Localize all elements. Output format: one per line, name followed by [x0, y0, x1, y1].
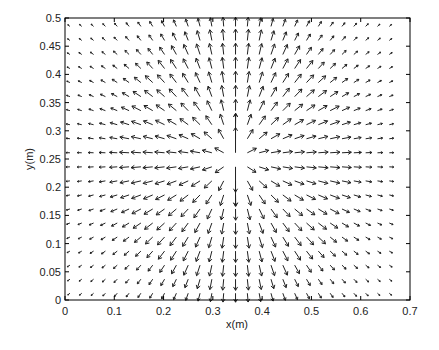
y-tick-label: 0.2 [46, 181, 61, 193]
x-tick-label: 0 [62, 305, 68, 317]
y-tick-label: 0.05 [40, 266, 61, 278]
x-tick-label: 0.7 [402, 305, 417, 317]
y-tick-label: 0.35 [40, 97, 61, 109]
x-tick-label: 0.2 [156, 305, 171, 317]
y-tick-label: 0 [55, 294, 61, 306]
x-tick-label: 0.5 [304, 305, 319, 317]
y-tick-label: 0.5 [46, 12, 61, 24]
y-tick-label: 0.4 [46, 68, 61, 80]
y-tick-label: 0.1 [46, 238, 61, 250]
y-tick-label: 0.3 [46, 125, 61, 137]
x-axis-label: x(m) [226, 318, 248, 330]
x-axis-ticks: 00.10.20.30.40.50.60.7 [62, 18, 418, 317]
y-tick-label: 0.15 [40, 209, 61, 221]
y-axis-ticks: 00.050.10.150.20.250.30.350.40.450.5 [40, 12, 410, 306]
x-tick-label: 0.6 [353, 305, 368, 317]
y-tick-label: 0.45 [40, 40, 61, 52]
vector-field [66, 17, 394, 302]
quiver-plot: 00.10.20.30.40.50.60.7 00.050.10.150.20.… [0, 0, 439, 350]
x-tick-label: 0.3 [205, 305, 220, 317]
x-tick-label: 0.1 [107, 305, 122, 317]
y-tick-label: 0.25 [40, 153, 61, 165]
x-tick-label: 0.4 [254, 305, 269, 317]
y-axis-label: y(m) [23, 148, 35, 170]
